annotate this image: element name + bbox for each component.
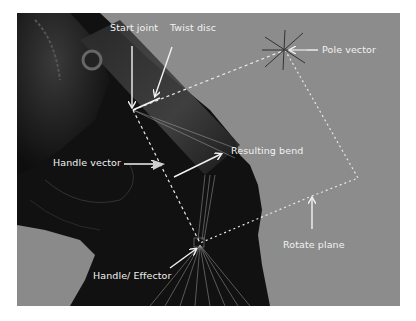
ik-diagram-frame: Start joint Twist disc Pole vector Handl…	[17, 13, 400, 306]
resulting-bend-label: Resulting bend	[231, 145, 303, 156]
rotate-plane-label: Rotate plane	[283, 239, 345, 250]
handle-vector-label: Handle vector	[53, 157, 121, 168]
handle-effector-label: Handle/ Effector	[93, 270, 172, 281]
pole-vector-label: Pole vector	[322, 44, 376, 55]
start-joint-label: Start joint	[110, 22, 158, 33]
twist-disc-label: Twist disc	[170, 22, 216, 33]
